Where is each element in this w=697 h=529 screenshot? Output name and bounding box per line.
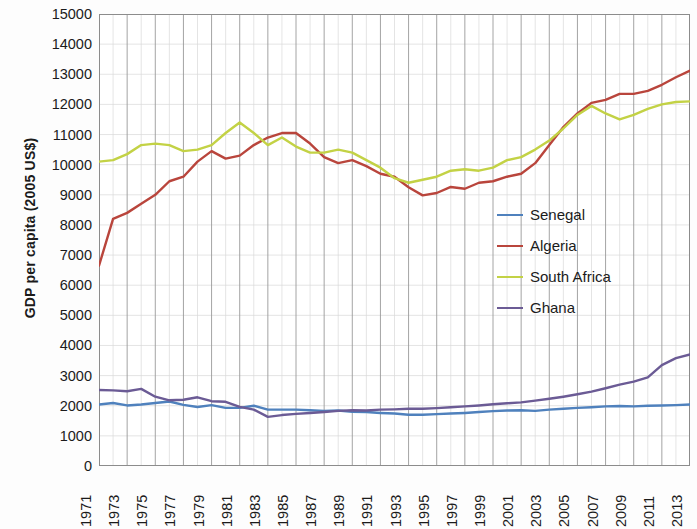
x-tick-label: 1979 [191, 495, 207, 527]
y-tick-label: 5000 [22, 307, 92, 323]
y-tick-label: 7000 [22, 247, 92, 263]
x-tick-label: 1991 [359, 495, 375, 527]
x-tick-label: 1999 [472, 495, 488, 527]
x-tick-label: 2005 [556, 495, 572, 527]
legend-item-algeria[interactable]: Algeria [497, 230, 687, 261]
legend-item-ghana[interactable]: Ghana [497, 292, 687, 323]
y-tick-label: 4000 [22, 337, 92, 353]
y-tick-label: 13000 [22, 66, 92, 82]
x-tick-label: 2007 [585, 495, 601, 527]
y-tick-label: 6000 [22, 277, 92, 293]
legend-swatch-icon [497, 245, 523, 247]
x-tick-label: 1981 [219, 495, 235, 527]
y-tick-label: 12000 [22, 96, 92, 112]
y-axis-tick-labels: 1500014000130001200011000100009000800070… [22, 0, 92, 529]
x-tick-label: 2003 [528, 495, 544, 527]
x-tick-label: 1977 [162, 495, 178, 527]
x-tick-label: 1975 [134, 495, 150, 527]
y-tick-label: 14000 [22, 36, 92, 52]
x-tick-label: 2001 [500, 495, 516, 527]
legend-swatch-icon [497, 307, 523, 309]
x-tick-label: 1997 [444, 495, 460, 527]
x-axis-tick-labels: 1971197319751977197919811983198519871989… [99, 466, 690, 529]
y-tick-label: 9000 [22, 187, 92, 203]
y-tick-label: 15000 [22, 6, 92, 22]
legend-label: Ghana [530, 299, 575, 316]
x-tick-label: 1993 [388, 495, 404, 527]
x-tick-label: 2011 [641, 496, 657, 527]
x-tick-label: 2009 [613, 495, 629, 527]
x-tick-label: 1985 [275, 495, 291, 527]
y-tick-label: 10000 [22, 157, 92, 173]
legend-item-south-africa[interactable]: South Africa [497, 261, 687, 292]
y-tick-label: 2000 [22, 398, 92, 414]
x-tick-label: 1989 [331, 495, 347, 527]
y-tick-label: 11000 [22, 127, 92, 143]
x-tick-label: 1987 [303, 495, 319, 527]
legend-swatch-icon [497, 214, 523, 216]
legend-label: South Africa [530, 268, 611, 285]
x-tick-label: 1983 [247, 495, 263, 527]
y-tick-label: 8000 [22, 217, 92, 233]
legend-item-senegal[interactable]: Senegal [497, 199, 687, 230]
legend-label: Senegal [530, 206, 585, 223]
y-tick-label: 1000 [22, 428, 92, 444]
y-tick-label: 0 [22, 458, 92, 474]
y-tick-label: 3000 [22, 368, 92, 384]
x-tick-label: 1995 [416, 495, 432, 527]
x-tick-label: 1971 [78, 495, 94, 527]
chart-legend: SenegalAlgeriaSouth AfricaGhana [497, 199, 687, 323]
gdp-per-capita-line-chart: GDP per capita (2005 US$) 15000140001300… [0, 0, 697, 529]
legend-swatch-icon [497, 276, 523, 278]
x-tick-label: 1973 [106, 495, 122, 527]
x-tick-label: 2013 [669, 495, 685, 527]
legend-label: Algeria [530, 237, 577, 254]
